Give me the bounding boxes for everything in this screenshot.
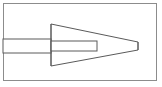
drawing-canvas — [0, 0, 162, 87]
shaft-shape — [3, 39, 51, 53]
inner-bore-shape — [51, 41, 97, 51]
technical-drawing — [0, 0, 162, 87]
